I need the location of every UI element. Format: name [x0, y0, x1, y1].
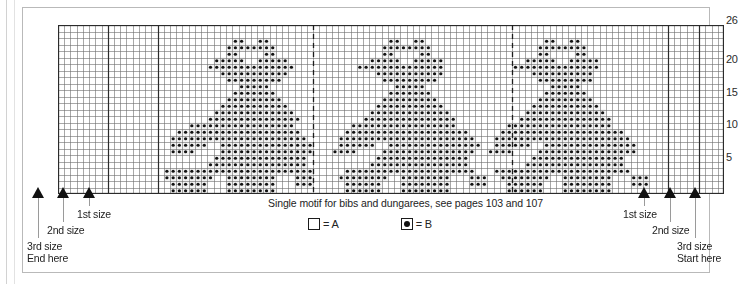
page-edge-rule-inner: [14, 0, 15, 284]
key-label-a: = A: [323, 218, 339, 230]
row-number-label: 26: [726, 14, 738, 26]
key-item-a: = A: [308, 218, 339, 230]
row-number-label: 20: [726, 53, 738, 65]
size-marker-label: 1st size: [623, 208, 657, 220]
empty-square-icon: [308, 218, 320, 230]
chart-grid-canvas[interactable]: [58, 25, 724, 194]
chart-caption: Single motif for bibs and dungarees, see…: [268, 197, 543, 209]
marker-leader-line: [38, 198, 39, 238]
size-marker-label: 3rd sizeStart here: [677, 240, 721, 264]
key-label-b: = B: [416, 218, 432, 230]
knitting-chart-grid[interactable]: [58, 25, 724, 194]
triangle-marker-icon: [57, 187, 69, 198]
triangle-marker-icon: [32, 187, 44, 198]
size-marker-sublabel: End here: [27, 252, 68, 264]
page-sheet: 262015105 3rd sizeEnd here2nd size1st si…: [22, 7, 710, 273]
row-number-label: 10: [726, 118, 738, 130]
size-marker-label: 2nd size: [652, 224, 690, 236]
triangle-marker-icon: [638, 187, 650, 198]
page-edge-rule-outer: [6, 0, 7, 284]
key-item-b: = B: [401, 218, 432, 230]
marker-leader-line: [89, 198, 90, 206]
marker-leader-line: [670, 198, 671, 222]
size-marker-sublabel: Start here: [677, 252, 721, 264]
symbol-key: = A = B: [308, 218, 432, 230]
dotted-square-icon: [401, 218, 413, 230]
marker-leader-line: [63, 198, 64, 222]
size-marker-label: 2nd size: [47, 224, 85, 236]
marker-leader-line: [695, 198, 696, 238]
size-marker-label: 1st size: [77, 208, 111, 220]
triangle-marker-icon: [664, 187, 676, 198]
triangle-marker-icon: [689, 187, 701, 198]
triangle-marker-icon: [83, 187, 95, 198]
marker-leader-line: [644, 198, 645, 206]
size-marker-label: 3rd sizeEnd here: [27, 240, 68, 264]
row-number-label: 15: [726, 86, 738, 98]
row-number-label: 5: [726, 151, 732, 163]
